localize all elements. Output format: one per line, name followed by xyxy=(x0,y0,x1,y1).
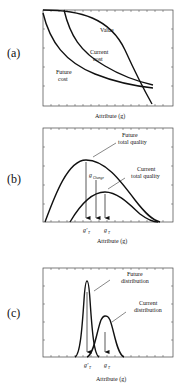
g-change-label: g xyxy=(89,172,92,178)
future-dist-label-1: Future xyxy=(127,271,143,277)
current-dist-label-2: distribution xyxy=(134,307,162,313)
current-cost-label-1: Current xyxy=(90,49,109,55)
future-cost-label-2: cost xyxy=(58,76,68,82)
current-dist-label-1: Current xyxy=(139,300,158,306)
future-tq-label-2: total quality xyxy=(118,139,147,145)
panel-a: Value Current cost Future cost Attribute… xyxy=(43,10,173,120)
value-label: Value xyxy=(100,27,114,33)
g-prime-t-sub-c: T xyxy=(89,366,92,370)
panel-b-xlabel: Attribute (g) xyxy=(97,238,127,245)
panel-a-xlabel: Attribute (g) xyxy=(95,113,125,120)
current-total-quality-curve xyxy=(70,192,158,222)
future-dist-label-2: distribution xyxy=(121,278,149,284)
panel-c: Future distribution Current distribution… xyxy=(43,268,173,383)
current-cost-label-2: cost xyxy=(93,56,103,62)
g-t-sub: T xyxy=(108,231,111,235)
g-change-sub: Change xyxy=(93,176,104,180)
current-tq-label-1: Current xyxy=(137,166,156,172)
panel-a-frame xyxy=(43,10,173,106)
future-cost-label-1: Future xyxy=(56,69,72,75)
g-t-sub-c: T xyxy=(108,366,111,370)
panel-c-xlabel: Attribute (g) xyxy=(96,376,126,383)
future-tq-label-1: Future xyxy=(122,132,138,138)
panel-b: Future total quality Current total quali… xyxy=(43,128,173,245)
panel-a-ticks xyxy=(43,10,173,106)
current-dist-leader xyxy=(112,312,126,322)
current-tq-label-2: total quality xyxy=(131,173,160,179)
future-dist-leader xyxy=(94,280,110,291)
current-cost-curve xyxy=(64,10,153,85)
g-prime-t-sub: T xyxy=(88,231,91,235)
g-t-tick: g xyxy=(104,227,107,233)
figure-canvas: Value Current cost Future cost Attribute… xyxy=(0,0,185,392)
future-leader xyxy=(93,143,116,157)
g-t-tick-c: g xyxy=(104,362,107,368)
